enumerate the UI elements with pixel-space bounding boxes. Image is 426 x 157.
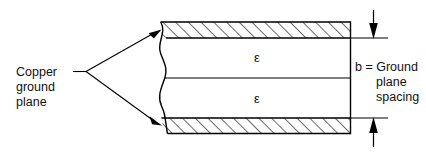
copper-ground-plane-leader <box>73 30 162 126</box>
spacing-label-line-1: b = Ground <box>355 60 418 74</box>
leader-arrowhead-upper <box>149 30 162 39</box>
upper-copper-ground-plane <box>155 18 355 44</box>
copper-ground-plane-label: Copper ground plane <box>16 65 57 109</box>
leader-branch-upper <box>86 33 155 72</box>
leader-arrowhead-lower <box>150 116 163 125</box>
dimension-arrow-up <box>369 117 378 147</box>
dimension-arrow-down <box>369 10 378 39</box>
copper-label-line-1: Copper <box>16 65 57 79</box>
dimension-arrow-up-head <box>369 117 378 133</box>
leader-branch-lower <box>86 72 154 122</box>
upper-dielectric-symbol: ε <box>254 50 260 65</box>
dimension-arrow-down-head <box>369 23 378 39</box>
lower-dielectric-symbol: ε <box>254 91 260 106</box>
copper-label-line-2: ground <box>16 80 55 94</box>
lower-copper-ground-plane <box>155 113 355 139</box>
spacing-label-line-2: plane <box>376 75 407 89</box>
spacing-label-line-3: spacing <box>376 90 419 104</box>
copper-label-line-3: plane <box>16 95 47 109</box>
diagram-canvas: ε ε Copper ground <box>0 0 426 157</box>
ground-plane-spacing-label: b = Ground plane spacing <box>355 60 419 104</box>
stripline-cross-section-figure: ε ε Copper ground <box>0 0 426 157</box>
lower-plane-hatch-fill <box>155 113 355 139</box>
